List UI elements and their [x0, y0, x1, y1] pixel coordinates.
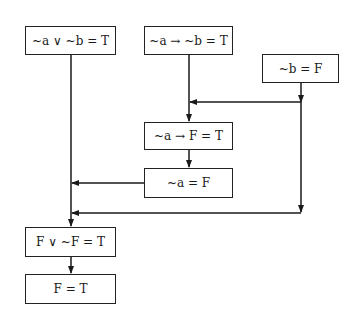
node-not-a-or-not-b: ~a ∨ ~b = T: [25, 26, 116, 55]
node-label: ~b = F: [279, 62, 323, 76]
node-label: F ∨ ~F = T: [36, 235, 105, 249]
flowchart-canvas: ~a ∨ ~b = T ~a → ~b = T ~b = F ~a → F = …: [0, 0, 358, 320]
node-label: ~a ∨ ~b = T: [32, 34, 109, 48]
node-f-or-not-f: F ∨ ~F = T: [25, 227, 116, 257]
node-label: ~a → F = T: [154, 129, 223, 143]
node-not-b-false: ~b = F: [262, 54, 339, 83]
node-label: ~a = F: [167, 176, 210, 190]
node-not-a-implies-not-b: ~a → ~b = T: [144, 26, 233, 55]
node-not-a-implies-f: ~a → F = T: [144, 122, 233, 150]
node-label: F = T: [53, 282, 87, 296]
node-not-a-false: ~a = F: [144, 168, 233, 198]
node-label: ~a → ~b = T: [149, 34, 227, 48]
node-f-equals-t: F = T: [25, 274, 116, 304]
